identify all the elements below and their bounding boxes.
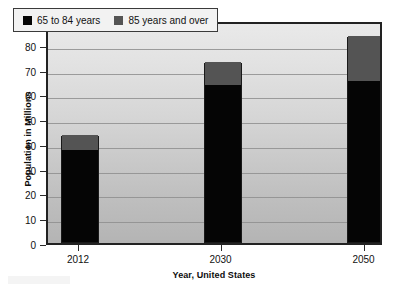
legend-swatch-icon	[114, 16, 123, 25]
y-axis-tick	[40, 47, 46, 48]
y-axis-tick	[40, 220, 46, 221]
chart-legend: 65 to 84 years85 years and over	[13, 8, 218, 32]
x-axis-tick-label: 2030	[191, 254, 251, 265]
y-axis-tick	[40, 195, 46, 196]
legend-swatch-icon	[23, 16, 32, 25]
bar-segment-85-and-over	[348, 36, 383, 81]
y-axis-tick	[40, 171, 46, 172]
x-axis-tick	[78, 245, 79, 251]
legend-label: 65 to 84 years	[37, 15, 100, 26]
y-axis-tick-label: 40	[0, 140, 40, 151]
bar-2050	[347, 37, 383, 243]
y-axis-tick	[40, 245, 46, 246]
chart-figure: Population in Millions 01020304050607080…	[0, 0, 404, 290]
bar-segment-65-to-84	[348, 81, 383, 242]
x-axis-tick-label: 2050	[334, 254, 394, 265]
y-axis-tick	[40, 72, 46, 73]
bar-segment-65-to-84	[205, 85, 241, 242]
x-axis-tick	[364, 245, 365, 251]
bar-segment-65-to-84	[62, 150, 98, 242]
gridline	[48, 49, 380, 50]
bar-segment-85-and-over	[205, 62, 241, 84]
y-axis-tick-label: 60	[0, 91, 40, 102]
y-axis-tick	[40, 146, 46, 147]
legend-entry: 85 years and over	[114, 15, 208, 26]
legend-entry: 65 to 84 years	[23, 15, 100, 26]
y-axis-tick	[40, 121, 46, 122]
y-axis-tick-label: 20	[0, 190, 40, 201]
x-axis-title: Year, United States	[46, 270, 382, 280]
scan-artifact	[8, 276, 70, 284]
y-axis-tick	[40, 96, 46, 97]
y-axis-tick-label: 70	[0, 66, 40, 77]
bar-2030	[204, 63, 242, 243]
x-axis-tick-label: 2012	[48, 254, 108, 265]
y-axis-tick-label: 80	[0, 41, 40, 52]
y-axis-tick-label: 0	[0, 240, 40, 251]
plot-area	[46, 22, 382, 245]
bar-2012	[61, 136, 99, 243]
y-axis-tick-label: 10	[0, 215, 40, 226]
bar-segment-85-and-over	[62, 135, 98, 150]
legend-label: 85 years and over	[128, 15, 208, 26]
x-axis-tick	[221, 245, 222, 251]
y-axis-tick-label: 50	[0, 116, 40, 127]
y-axis-tick-label: 30	[0, 165, 40, 176]
